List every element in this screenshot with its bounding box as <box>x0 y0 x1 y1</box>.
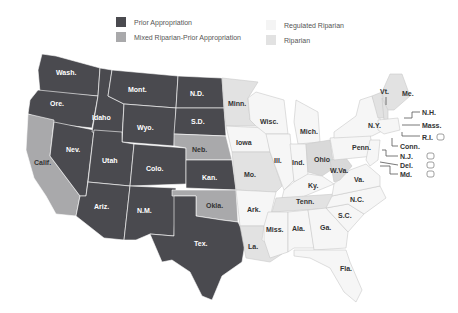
legend-swatch-icon <box>266 20 276 30</box>
label-va: Va. <box>354 176 364 183</box>
label-idaho: Idaho <box>92 114 111 121</box>
label-ri: R.I. <box>422 134 433 141</box>
label-mo: Mo. <box>244 171 256 178</box>
label-ohio: Ohio <box>314 156 330 163</box>
label-vt: Vt. <box>380 88 389 95</box>
state-fla <box>294 250 362 302</box>
label-nd: N.D. <box>190 90 204 97</box>
label-calif: Calif. <box>34 159 51 166</box>
label-utah: Utah <box>102 157 118 164</box>
label-ariz: Ariz. <box>94 203 109 210</box>
label-iowa: Iowa <box>236 139 252 146</box>
label-ala: Ala. <box>292 225 305 232</box>
legend-swatch-icon <box>116 17 126 27</box>
label-la: La. <box>248 243 258 250</box>
label-wva: W.Va. <box>330 167 348 174</box>
swatch-md <box>427 171 434 177</box>
label-conn: Conn. <box>400 143 420 150</box>
label-wisc: Wisc. <box>260 118 278 125</box>
legend-label: Regulated Riparian <box>284 22 344 29</box>
label-neb: Neb. <box>192 146 207 153</box>
legend-left: Prior Appropriation Mixed Riparian-Prior… <box>116 16 241 46</box>
state-new-england-south <box>378 118 400 134</box>
legend-item-regulated-riparian: Regulated Riparian <box>266 19 344 31</box>
legend-label: Prior Appropriation <box>134 19 192 26</box>
label-penn: Penn. <box>352 144 371 151</box>
legend-label: Riparian <box>284 37 310 44</box>
label-mass: Mass. <box>422 122 442 129</box>
swatch-ri <box>437 134 444 140</box>
label-wyo: Wyo. <box>137 124 154 132</box>
label-ga: Ga. <box>320 224 331 231</box>
label-mich: Mich. <box>300 128 318 135</box>
label-sd: S.D. <box>191 118 205 125</box>
us-water-law-map: Wash. Ore. Calif. Idaho Nev. Mont. Wyo. … <box>0 0 458 313</box>
swatch-nj <box>427 153 434 159</box>
label-ark: Ark. <box>247 206 261 213</box>
label-mont: Mont. <box>128 86 147 93</box>
state-mich <box>294 100 320 144</box>
label-tex: Tex. <box>194 240 208 247</box>
label-ny: N.Y. <box>368 122 381 129</box>
state-miss <box>264 212 288 258</box>
legend-swatch-icon <box>116 32 126 42</box>
label-colo: Colo. <box>146 165 164 172</box>
label-minn: Minn. <box>228 100 246 107</box>
label-nm: N.M. <box>137 207 152 214</box>
legend-swatch-icon <box>266 35 276 45</box>
legend-item-riparian: Riparian <box>266 34 344 46</box>
label-nj: N.J. <box>400 153 413 160</box>
legend-item-mixed: Mixed Riparian-Prior Appropriation <box>116 31 241 43</box>
label-okla: Okla. <box>206 202 223 209</box>
label-tenn: Tenn. <box>296 198 314 205</box>
label-md: Md. <box>400 171 412 178</box>
label-ind: Ind. <box>292 159 304 166</box>
legend-item-prior-appropriation: Prior Appropriation <box>116 16 241 28</box>
label-nc: N.C. <box>350 196 364 203</box>
label-kan: Kan. <box>202 174 217 181</box>
label-del: Del. <box>400 162 413 169</box>
swatch-del <box>427 162 434 168</box>
label-nev: Nev. <box>66 146 80 153</box>
label-ill: Ill. <box>274 157 282 164</box>
label-ore: Ore. <box>50 100 64 107</box>
label-me: Me. <box>402 90 414 97</box>
label-ky: Ky. <box>308 182 318 190</box>
legend-label: Mixed Riparian-Prior Appropriation <box>134 34 241 41</box>
label-nh: N.H. <box>422 109 436 116</box>
label-sc: S.C. <box>338 212 352 219</box>
legend-right: Regulated Riparian Riparian <box>266 19 344 49</box>
label-fla: Fla. <box>340 265 352 272</box>
label-miss: Miss. <box>266 226 284 233</box>
label-wash: Wash. <box>56 69 76 76</box>
